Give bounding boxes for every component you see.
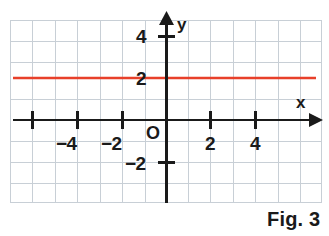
y-axis xyxy=(158,11,175,203)
y-tick-label-4: 4 xyxy=(136,27,146,46)
figure-caption: Fig. 3 xyxy=(267,209,320,229)
x-tick-label-minus-2: −2 xyxy=(101,134,122,153)
y-tick-label-2: 2 xyxy=(136,69,146,88)
x-axis-name-label: x xyxy=(296,94,305,111)
y-tick-label-minus-2: −2 xyxy=(125,154,146,173)
origin-label: O xyxy=(146,124,160,142)
coordinate-plane-plot xyxy=(0,0,329,236)
x-tick-label-2: 2 xyxy=(205,134,215,153)
figure-container: 4 2 −2 −4 −2 2 4 O x y Fig. 3 xyxy=(0,0,329,236)
y-axis-name-label: y xyxy=(177,16,186,33)
x-tick-label-minus-4: −4 xyxy=(56,134,77,153)
x-tick-label-4: 4 xyxy=(250,134,260,153)
x-axis xyxy=(13,111,323,129)
y-axis-arrowhead xyxy=(159,11,174,25)
